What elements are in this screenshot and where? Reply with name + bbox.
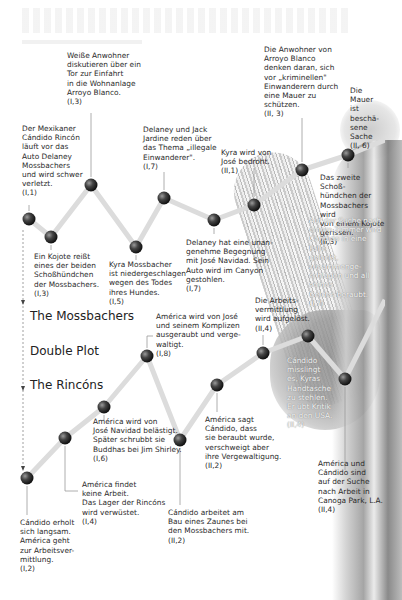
event-label: Die Anwohner von Arroyo Blanco denken da… [264,45,338,119]
event-label: Kyra Mossbacher ist niedergeschlagen weg… [109,260,186,306]
event-label: Delaney hat eine unan- genehme Begegnung… [186,238,273,293]
event-label: América wird von José und seinem Kompliz… [156,312,241,358]
legend-rincons: The Rincóns [30,378,103,392]
arrow-down-icon [21,386,25,391]
event-label: América findet keine Arbeit. Das Lager d… [82,480,165,526]
event-label: América und Cándido sind auf der Suche n… [318,459,383,514]
event-label: Der Mexikaner Cándido Rincón läuft vor d… [22,124,83,198]
event-label: Cándido arbeitet am Bau eines Zaunes bei… [168,508,249,545]
event-label: Delaney und Jack Jardine reden über das … [143,125,217,171]
event-label: América wird von José Navidad belästigt.… [93,417,182,463]
event-label: Kyra wird von José bedroht.(II,1) [221,148,271,176]
arrow-down-icon [21,300,25,305]
legend-double-plot: Double Plot [30,344,99,358]
event-label: Cándido erholt sich langsam. América geh… [20,518,74,573]
event-label: Ein Kojote reißt eines der beiden Schoßh… [34,252,99,298]
legend-mossbachers: The Mossbachers [30,309,134,323]
event-label: América sagt Cándido, dass sie beraubt w… [205,415,281,470]
arrow-down-icon [21,466,25,471]
event-label: Weiße Anwohner diskutieren über ein Tor … [67,51,141,106]
event-label: Auf der Suche nach einem Zimmer wird Cán… [309,216,385,308]
event-label: Cándido misslingt es, Kyras Handtasche z… [287,356,332,430]
event-label: Die Mauer ist beschä- sene Sache(II, 6) [350,86,385,150]
event-label: Die Arbeits- vermittlung wird aufgelöst.… [255,296,310,333]
